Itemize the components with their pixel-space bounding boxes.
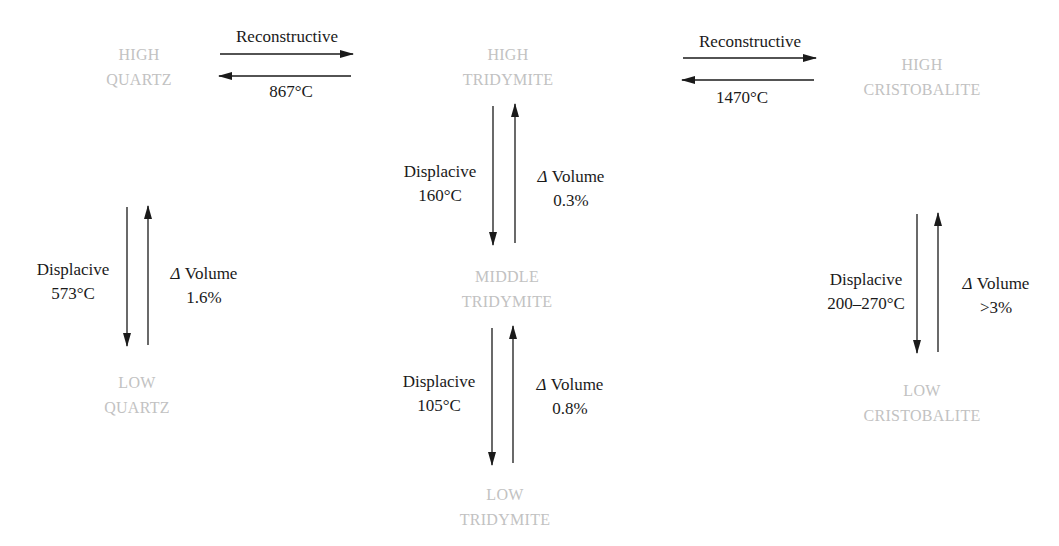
transition-type-label: Displacive	[404, 160, 477, 184]
phase-line1: HIGH	[863, 52, 980, 77]
volume-change-value: 1.6%	[171, 286, 238, 310]
phase-line1: MIDDLE	[462, 264, 553, 289]
volume-label: Volume	[552, 167, 605, 186]
phase-line2: TRIDYMITE	[463, 67, 554, 92]
phase-line1: HIGH	[106, 42, 172, 67]
reconstructive-arrows-1470	[682, 58, 816, 80]
displacive-label-105: Displacive 105°C	[403, 370, 476, 418]
phase-line2: QUARTZ	[104, 395, 170, 420]
phase-high-tridymite: HIGH TRIDYMITE	[463, 42, 554, 92]
phase-line1: LOW	[863, 378, 980, 403]
phase-low-quartz: LOW QUARTZ	[104, 370, 170, 420]
volume-change-label-0-8: Δ Volume 0.8%	[537, 373, 604, 421]
phase-high-quartz: HIGH QUARTZ	[106, 42, 172, 92]
volume-change-value: 0.3%	[538, 189, 605, 213]
phase-middle-tridymite: MIDDLE TRIDYMITE	[462, 264, 553, 314]
volume-change-label-3: Δ Volume >3%	[963, 272, 1030, 320]
transition-temperature-label: 573°C	[37, 282, 110, 306]
transition-type-label: Displacive	[827, 268, 905, 292]
phase-line2: CRISTOBALITE	[863, 403, 980, 428]
displacive-label-160: Displacive 160°C	[404, 160, 477, 208]
volume-label: Volume	[977, 274, 1030, 293]
transition-type-label: Displacive	[403, 370, 476, 394]
delta-symbol: Δ	[963, 274, 973, 293]
phase-line1: HIGH	[463, 42, 554, 67]
volume-change-label-1-6: Δ Volume 1.6%	[171, 262, 238, 310]
displacive-arrows-200-270	[917, 213, 938, 353]
transition-temperature-label: 1470°C	[716, 86, 768, 110]
phase-line2: CRISTOBALITE	[863, 77, 980, 102]
transition-temperature-label: 105°C	[403, 394, 476, 418]
transition-type-label: Reconstructive	[699, 30, 801, 54]
transition-type-label: Displacive	[37, 258, 110, 282]
displacive-arrows-105	[492, 326, 513, 465]
delta-symbol: Δ	[537, 375, 547, 394]
transition-temperature-label: 867°C	[269, 80, 313, 104]
delta-symbol: Δ	[171, 264, 181, 283]
volume-change-label-0-3: Δ Volume 0.3%	[538, 165, 605, 213]
phase-line2: TRIDYMITE	[460, 507, 551, 532]
delta-symbol: Δ	[538, 167, 548, 186]
displacive-arrows-160	[493, 104, 515, 245]
volume-change-value: >3%	[963, 296, 1030, 320]
phase-line1: LOW	[104, 370, 170, 395]
transition-temperature-label: 200–270°C	[827, 292, 905, 316]
displacive-label-573: Displacive 573°C	[37, 258, 110, 306]
transition-type-label: Reconstructive	[236, 25, 338, 49]
volume-label: Volume	[551, 375, 604, 394]
phase-line2: TRIDYMITE	[462, 289, 553, 314]
phase-line1: LOW	[460, 482, 551, 507]
displacive-label-200-270: Displacive 200–270°C	[827, 268, 905, 316]
phase-high-cristobalite: HIGH CRISTOBALITE	[863, 52, 980, 102]
displacive-arrows-573	[127, 206, 148, 346]
phase-low-tridymite: LOW TRIDYMITE	[460, 482, 551, 532]
reconstructive-arrows-867	[219, 54, 353, 76]
volume-label: Volume	[185, 264, 238, 283]
transition-temperature-label: 160°C	[404, 184, 477, 208]
phase-low-cristobalite: LOW CRISTOBALITE	[863, 378, 980, 428]
volume-change-value: 0.8%	[537, 397, 604, 421]
phase-line2: QUARTZ	[106, 67, 172, 92]
